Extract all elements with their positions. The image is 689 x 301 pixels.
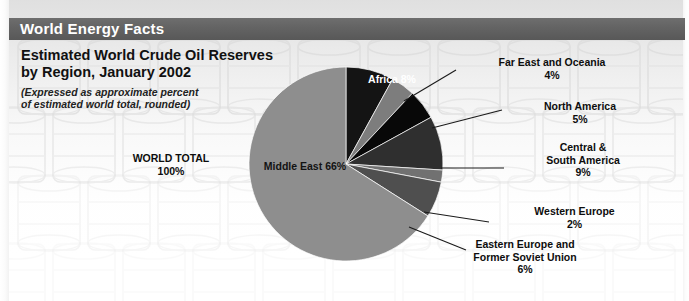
pie-label-eastern-europe-name1: Eastern Europe and [475,238,574,250]
pie-label-middle-east-pct: 66% [325,160,346,172]
pie-label-north-america: North America 5% [500,100,660,125]
pie-label-western-europe-pct: 2% [487,218,662,231]
pie-label-central-south-pct: 9% [503,166,663,179]
pie-label-eastern-europe-pct: 6% [420,263,630,276]
world-total-value: 100% [106,165,236,178]
pie-label-north-america-name: North America [544,100,616,112]
leader-line-western-europe [424,212,489,222]
pie-label-africa-pct: 8% [401,73,416,85]
pie-label-far-east-and-oceania: Far East and Oceania 4% [452,56,652,81]
pie-label-eastern-europe-name2: Former Soviet Union [420,251,630,264]
pie-label-north-america-pct: 5% [500,113,660,126]
pie-label-far-east-pct: 4% [452,69,652,82]
pie-label-africa-name: Africa [368,73,398,85]
world-energy-facts-figure: World Energy Facts Estimated World Crude… [0,0,689,301]
pie-label-central-south-name1: Central & [560,141,607,153]
pie-label-central-south-name2: South America [503,154,663,167]
world-total-label: WORLD TOTAL 100% [106,152,236,177]
pie-label-middle-east-name: Middle East [264,160,322,172]
pie-label-western-europe: Western Europe 2% [487,205,662,230]
pie-label-eastern-europe: Eastern Europe and Former Soviet Union 6… [420,238,630,276]
pie-label-far-east-name: Far East and Oceania [499,56,606,68]
pie-label-central-south-america: Central & South America 9% [503,141,663,179]
pie-label-western-europe-name: Western Europe [534,205,614,217]
pie-label-middle-east: Middle East 66% [252,160,358,173]
world-total-name: WORLD TOTAL [133,152,210,164]
pie-label-africa: Africa 8% [360,73,424,86]
leader-line-north-america [432,110,502,128]
